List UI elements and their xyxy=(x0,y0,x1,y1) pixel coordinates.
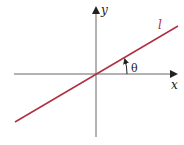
x-axis-label: x xyxy=(171,78,178,92)
angle-arc-icon xyxy=(125,60,127,74)
line-label: l xyxy=(158,18,162,32)
angle-label: θ xyxy=(131,62,138,75)
y-axis-label: y xyxy=(100,3,108,17)
diagram-canvas: y x l θ xyxy=(0,0,184,145)
